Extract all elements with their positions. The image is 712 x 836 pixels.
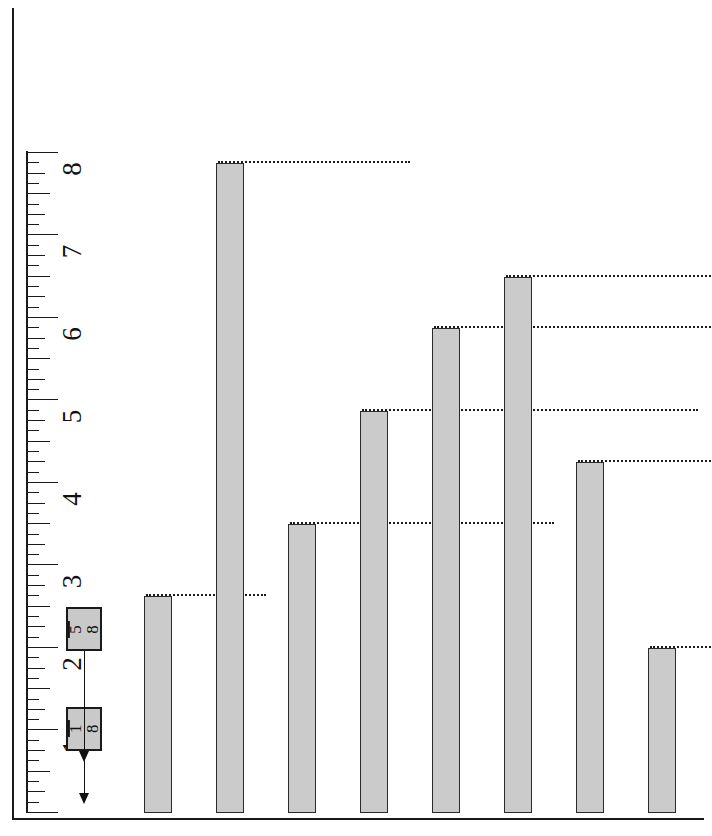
callout-arrow-head [79,793,89,804]
bar [432,328,460,813]
ruler-tick [28,400,58,401]
bar [648,648,676,813]
ruler-label-7: 7 [59,245,86,259]
ruler-tick [28,245,39,246]
ruler-tick [28,451,39,452]
ruler-label-6: 6 [59,327,86,341]
ruler-tick [28,534,39,535]
ruler-tick [28,379,45,380]
ruler-tick [28,647,58,648]
ruler-tick [28,410,39,411]
ruler-tick [28,565,58,566]
leader-line [218,161,410,163]
ruler-tick [28,585,45,586]
ruler-label-2: 2 [59,657,86,671]
ruler-tick [28,688,50,689]
ruler-tick [28,183,39,184]
ruler-tick [28,173,45,174]
callout-arrow-line [84,651,85,755]
answer-item: 6.answer [500,825,543,836]
ruler-tick [28,544,45,545]
ruler-tick [28,338,45,339]
bar [360,411,388,813]
ruler-tick [28,461,45,462]
ruler-tick [28,503,45,504]
ruler-tick [28,441,50,442]
ruler-tick [28,317,58,318]
leader-line [434,326,712,328]
ruler-tick [28,812,58,813]
ruler-tick [28,802,39,803]
answer-item: 1.258answer [140,825,183,836]
answer-item: 3.answer [284,825,327,836]
ruler-tick [28,204,39,205]
ruler-tick [28,472,39,473]
ruler-tick [28,678,39,679]
answer-item: 5.answer [428,825,471,836]
ruler-tick [28,699,39,700]
worksheet-page: 12345678 1858 1.258answer2.answer3.answe… [0,0,712,836]
worksheet-content: 12345678 1858 1.258answer2.answer3.answe… [26,23,686,813]
ruler-tick [28,730,58,731]
ruler-tick [28,606,50,607]
ruler-tick [28,214,45,215]
ruler-tick [28,616,39,617]
answer-item: 2.answer [212,825,255,836]
leader-line [146,594,266,596]
bar [504,277,532,813]
ruler-tick [28,348,39,349]
ruler-tick [28,265,39,266]
ruler-tick [28,791,45,792]
ruler-tick [28,358,50,359]
ruler-tick [28,513,39,514]
ruler-tick [28,235,58,236]
ruler-tick [28,750,45,751]
bar [144,596,172,813]
five-eighths-callout: 58 [66,607,102,651]
ruler-label-5: 5 [59,410,86,424]
ruler-tick [28,637,39,638]
ruler-tick [28,719,39,720]
page-border-left [12,8,14,820]
fraction-bar [68,621,70,638]
ruler-tick [28,657,39,658]
ruler-tick [28,781,39,782]
ruler-label-8: 8 [59,162,86,176]
ruler-tick [28,523,50,524]
ruler-tick [28,327,39,328]
leader-line [506,275,712,277]
ruler-tick [28,389,39,390]
ruler-label-3: 3 [59,575,86,589]
ruler-tick [28,709,45,710]
fraction-denominator: 8 [84,721,101,736]
answer-item: 4.answer [356,825,399,836]
ruler-tick [28,771,50,772]
ruler-tick [28,193,50,194]
ruler-tick [28,307,39,308]
bar [576,462,604,813]
ruler-tick [28,575,39,576]
bar [216,163,244,813]
ruler-tick [28,492,39,493]
ruler-tick [28,482,58,483]
leader-line [578,460,712,462]
ruler-tick [28,554,39,555]
ruler-tick [28,740,39,741]
fraction-denominator: 8 [84,622,101,637]
ruler-tick [28,152,58,153]
callout-arrow-head [79,751,89,762]
ruler-tick [28,276,50,277]
ruler-tick [28,760,39,761]
ruler-tick [28,430,39,431]
answer-item: 8.answer [644,825,687,836]
leader-line [650,646,712,648]
ruler-tick [28,626,45,627]
ruler-tick [28,595,39,596]
answer-item: 7.answer [572,825,615,836]
bar [288,524,316,813]
ruler-tick [28,296,45,297]
ruler-tick [28,369,39,370]
ruler-tick [28,255,45,256]
ruler-tick [28,286,39,287]
ruler-label-4: 4 [59,492,86,506]
